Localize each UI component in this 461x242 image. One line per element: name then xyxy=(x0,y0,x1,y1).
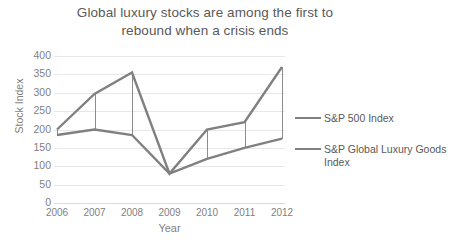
x-tick-label-2009: 2009 xyxy=(153,207,187,218)
y-tick-label-50: 50 xyxy=(15,179,51,190)
legend-label-sp500: S&P 500 Index xyxy=(324,112,394,125)
x-tick-label-2010: 2010 xyxy=(190,207,224,218)
series-connectors xyxy=(58,67,283,159)
chart-container: Global luxury stocks are among the first… xyxy=(0,0,461,242)
x-axis-title: Year xyxy=(57,222,282,234)
x-tick-label-2011: 2011 xyxy=(228,207,262,218)
legend-swatch-sp500 xyxy=(295,117,321,119)
chart-legend: S&P 500 Index S&P Global Luxury Goods In… xyxy=(295,112,461,187)
legend-label-luxury-goods-line-2: Index xyxy=(324,156,350,168)
legend-entry-luxury-goods[interactable]: S&P Global Luxury Goods Index xyxy=(295,143,461,169)
y-tick-label-100: 100 xyxy=(15,160,51,171)
legend-entry-sp500[interactable]: S&P 500 Index xyxy=(295,112,461,125)
x-tick-label-2008: 2008 xyxy=(115,207,149,218)
y-axis-title: Stock Index xyxy=(13,61,25,151)
x-tick-label-2007: 2007 xyxy=(78,207,112,218)
legend-label-luxury-goods-line-1: S&P Global Luxury Goods xyxy=(324,143,446,155)
legend-label-luxury-goods: S&P Global Luxury Goods Index xyxy=(324,143,446,169)
series-lines xyxy=(57,67,282,174)
legend-swatch-luxury-goods xyxy=(295,148,321,150)
y-tick-label-400: 400 xyxy=(15,50,51,61)
x-tick-label-2006: 2006 xyxy=(40,207,74,218)
x-tick-label-2012: 2012 xyxy=(265,207,299,218)
series-line-1 xyxy=(57,67,282,174)
